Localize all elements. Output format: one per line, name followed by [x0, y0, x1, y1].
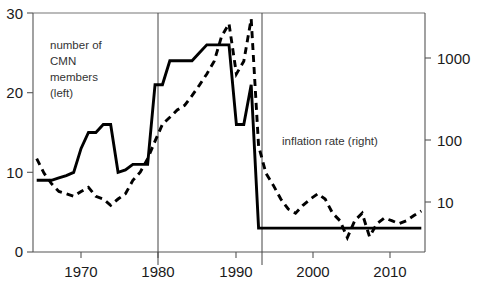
x-tick-label-1970: 1970 — [64, 263, 97, 280]
left-series-label-line4: (left) — [50, 87, 73, 99]
left-series-label: number of CMN members (left) — [50, 39, 103, 99]
right-tick-label-100: 100 — [437, 132, 462, 149]
left-series-label-line3: members — [50, 71, 98, 83]
right-series-label: inflation rate (right) — [282, 135, 378, 147]
x-tick-label-2000: 2000 — [296, 263, 329, 280]
left-tick-label-30: 30 — [6, 5, 23, 22]
x-tick-label-1990: 1990 — [219, 263, 252, 280]
right-tick-label-1000: 1000 — [437, 50, 470, 67]
chart-svg: 0 10 20 30 10 100 1000 1970 1980 1990 20… — [0, 0, 479, 295]
left-series-label-line1: number of — [50, 39, 103, 51]
x-tick-label-1980: 1980 — [141, 263, 174, 280]
left-tick-label-20: 20 — [6, 84, 23, 101]
chart-container: 0 10 20 30 10 100 1000 1970 1980 1990 20… — [0, 0, 479, 295]
left-tick-label-10: 10 — [6, 164, 23, 181]
x-tick-label-2010: 2010 — [373, 263, 406, 280]
left-tick-label-0: 0 — [15, 243, 23, 260]
left-series-label-line2: CMN — [50, 55, 76, 67]
right-tick-label-10: 10 — [437, 194, 454, 211]
